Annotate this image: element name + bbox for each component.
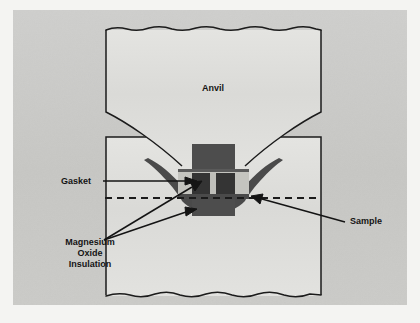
label-insulation-line-2: Oxide	[77, 248, 102, 258]
sample-slit	[210, 173, 216, 194]
label-insulation-line-3: Insulation	[69, 259, 112, 269]
anvil-cell-diagram: Anvil Gasket Sample Magnesium Oxide Insu…	[0, 0, 420, 323]
label-anvil: Anvil	[202, 83, 224, 93]
cell-band-top-edge	[178, 169, 249, 172]
label-insulation-line-1: Magnesium	[65, 237, 115, 247]
label-gasket: Gasket	[61, 176, 91, 186]
sample-core-right	[216, 173, 235, 194]
label-sample: Sample	[350, 216, 382, 226]
figure-root: Anvil Gasket Sample Magnesium Oxide Insu…	[0, 0, 420, 323]
